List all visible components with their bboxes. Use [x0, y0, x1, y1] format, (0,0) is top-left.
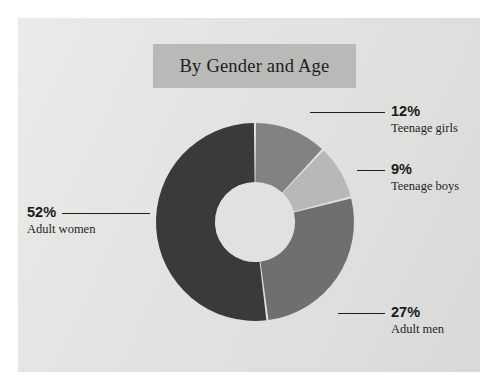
callout-category: Teenage girls — [391, 120, 458, 136]
leader-line-teenage-boys — [357, 170, 385, 171]
leader-line-teenage-girls — [310, 112, 385, 113]
leader-line-adult-men — [338, 313, 385, 314]
callout-category: Adult women — [27, 221, 95, 237]
donut-slice-adult-women[interactable] — [156, 123, 266, 321]
callout-percent: 12% — [391, 103, 458, 119]
callout-teenage-girls: 12% Teenage girls — [391, 103, 458, 136]
donut-slice-adult-men[interactable] — [260, 198, 354, 320]
callout-category: Teenage boys — [391, 178, 459, 194]
callout-category: Adult men — [391, 321, 444, 337]
callout-teenage-boys: 9% Teenage boys — [391, 161, 459, 194]
callout-adult-women: 52% Adult women — [27, 204, 95, 237]
chart-page: By Gender and Age 12% Teenage girls 9% T… — [0, 0, 500, 387]
donut-slices — [156, 123, 354, 321]
callout-percent: 9% — [391, 161, 459, 177]
callout-adult-men: 27% Adult men — [391, 304, 444, 337]
callout-percent: 27% — [391, 304, 444, 320]
callout-percent: 52% — [27, 204, 95, 220]
